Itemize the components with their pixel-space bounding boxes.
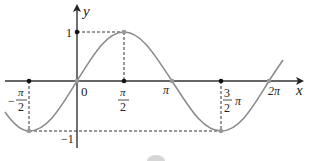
tick-dot-three-pi-half: [219, 79, 224, 84]
x-tick-two-pi: 2π: [268, 84, 281, 98]
tick-dot-pi-half: [122, 79, 127, 84]
tick-dot-y1: [75, 30, 80, 35]
y-axis-label: y: [81, 3, 90, 19]
point-two-pi: [267, 79, 272, 84]
point-pi: [170, 79, 175, 84]
tick-dot-neg-pi-half: [27, 79, 32, 84]
y-tick-1: 1: [66, 26, 72, 40]
point-min-left: [27, 129, 32, 134]
x-tick-three-pi-half: 3 2 π: [223, 86, 242, 115]
point-max: [122, 30, 127, 35]
point-origin: [75, 79, 80, 84]
svg-text:−: −: [8, 94, 15, 108]
svg-text:2: 2: [18, 100, 24, 114]
x-tick-pi: π: [163, 83, 170, 97]
x-tick-pi-half: π 2: [118, 86, 129, 114]
point-min-right: [219, 129, 224, 134]
sine-graph: y x 0 1 −1 − π 2 π 2 π 3 2 π 2π: [0, 0, 312, 161]
bottom-artifact: [147, 155, 165, 161]
x-tick-neg-pi-half: − π 2: [8, 86, 27, 114]
svg-text:2: 2: [120, 100, 126, 114]
svg-text:2: 2: [224, 101, 230, 115]
origin-label: 0: [81, 84, 88, 99]
svg-text:π: π: [235, 94, 242, 108]
y-tick-neg1: −1: [61, 132, 74, 146]
x-axis-label: x: [295, 82, 303, 98]
svg-text:3: 3: [224, 86, 230, 100]
svg-text:π: π: [120, 86, 126, 98]
svg-text:π: π: [18, 86, 24, 98]
